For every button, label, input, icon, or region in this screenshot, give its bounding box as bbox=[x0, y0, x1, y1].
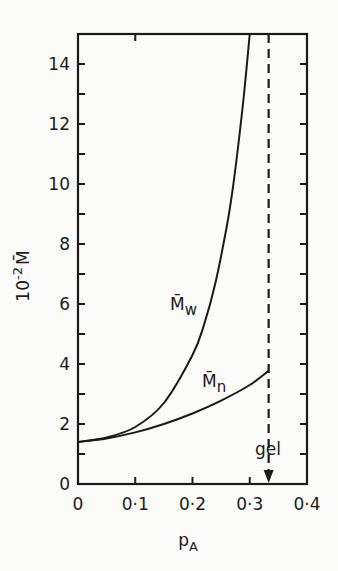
plot-frame bbox=[78, 34, 307, 484]
y-axis-label: 10-2M̄ bbox=[10, 250, 33, 301]
y-tick-label: 2 bbox=[59, 414, 70, 434]
y-tick-label: 10 bbox=[48, 174, 70, 194]
x-tick-label: 0·1 bbox=[122, 494, 149, 514]
series-label-mn: M̄n bbox=[202, 370, 226, 396]
x-axis-label: pA bbox=[178, 530, 198, 554]
data-series bbox=[78, 34, 269, 442]
y-tick-label: 8 bbox=[59, 234, 70, 254]
annotations bbox=[264, 34, 274, 483]
y-tick-label: 4 bbox=[59, 354, 70, 374]
y-tick-label: 12 bbox=[48, 114, 70, 134]
series-mn-curve bbox=[78, 371, 269, 442]
gel-arrow-icon bbox=[264, 470, 274, 483]
x-tick-label: 0·2 bbox=[179, 494, 206, 514]
y-tick-label: 6 bbox=[59, 294, 70, 314]
x-tick-label: 0·3 bbox=[236, 494, 263, 514]
y-tick-label: 0 bbox=[59, 474, 70, 494]
x-tick-label: 0 bbox=[73, 494, 84, 514]
series-label-mw: M̄w bbox=[170, 293, 197, 319]
gel-point-label: gel bbox=[255, 439, 281, 459]
axis-ticks bbox=[78, 34, 307, 484]
x-tick-label: 0·4 bbox=[293, 494, 320, 514]
chart-figure: 0246810121400·10·20·30·4 10-2M̄ pA M̄w M… bbox=[0, 0, 338, 571]
y-tick-label: 14 bbox=[48, 54, 70, 74]
